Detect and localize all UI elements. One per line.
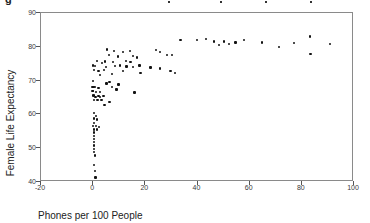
truncated-title-fragment-dot (168, 1, 170, 3)
x-axis-tick-label: 80 (297, 184, 305, 191)
y-axis-tick-label: 50 (19, 144, 36, 151)
y-axis-tick-label: 60 (19, 110, 36, 117)
x-axis-tick-label: -20 (35, 184, 45, 191)
data-point (105, 82, 107, 84)
data-point (93, 135, 95, 137)
scatter-chart-canvas: g -20020406080100908070605040 Female Lif… (0, 0, 370, 223)
data-point (228, 43, 230, 45)
data-point (97, 87, 99, 89)
data-point (106, 48, 108, 50)
y-axis-tick-label: 70 (19, 76, 36, 83)
y-axis-tick (36, 147, 40, 148)
data-point (125, 65, 127, 67)
data-point (94, 86, 96, 88)
data-point (96, 118, 98, 120)
x-axis-tick-label: 40 (193, 184, 201, 191)
data-point (93, 117, 95, 119)
data-point (136, 56, 138, 58)
y-axis-tick (36, 181, 40, 182)
data-point (149, 66, 151, 68)
x-axis-tick-label: 60 (245, 184, 253, 191)
x-axis-label: Phones per 100 People (38, 210, 143, 221)
y-axis-label: Female Life Expectancy (5, 70, 16, 177)
y-axis-tick-label: 90 (19, 9, 36, 16)
truncated-title-row: g (0, 0, 370, 5)
y-axis-tick (36, 46, 40, 47)
data-point (218, 44, 220, 46)
data-point (129, 61, 131, 63)
truncated-title-fragment-dot (265, 1, 267, 3)
truncated-title-fragment-dot (220, 1, 222, 3)
x-axis-tick-label: 0 (90, 184, 94, 191)
data-point (213, 40, 215, 42)
y-axis-tick (36, 80, 40, 81)
data-point (234, 41, 236, 43)
y-axis-tick (36, 12, 40, 13)
data-point (117, 55, 119, 57)
data-point (309, 35, 311, 37)
y-axis-tick-label: 80 (19, 42, 36, 49)
data-point (138, 64, 140, 66)
truncated-title-glyph: g (5, 0, 12, 5)
data-point (117, 83, 119, 85)
data-point (261, 41, 263, 43)
data-point (93, 148, 95, 150)
y-axis-tick (36, 113, 40, 114)
truncated-title-fragment-dot (310, 1, 312, 3)
data-point (179, 39, 181, 41)
data-point (115, 88, 117, 90)
plot-frame (40, 12, 353, 181)
data-point (133, 91, 135, 93)
x-axis-tick-label: 20 (140, 184, 148, 191)
data-point (111, 86, 113, 88)
x-axis-tick-label: 100 (347, 184, 359, 191)
data-point (108, 81, 110, 83)
data-point (119, 64, 121, 66)
data-point (94, 176, 96, 178)
y-axis-tick-label: 40 (19, 178, 36, 185)
data-point (96, 128, 98, 130)
data-point (95, 115, 97, 117)
data-point (223, 40, 225, 42)
